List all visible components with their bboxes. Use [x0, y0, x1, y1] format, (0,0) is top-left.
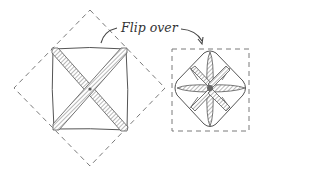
center-point — [88, 87, 91, 90]
flip-over-label: Flip over — [121, 20, 178, 35]
center-point — [207, 85, 213, 91]
after-flip-figure — [172, 49, 249, 131]
